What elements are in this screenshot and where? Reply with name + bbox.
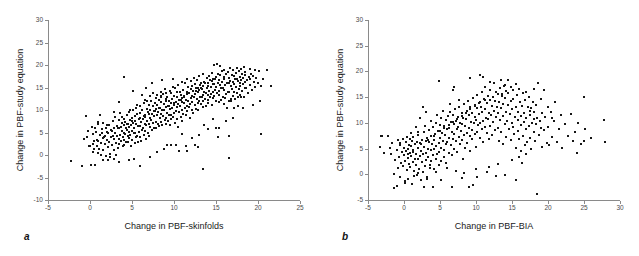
- data-point: [210, 93, 212, 95]
- data-point: [136, 135, 138, 137]
- data-point: [412, 151, 414, 153]
- data-point: [138, 118, 140, 120]
- data-point: [538, 134, 540, 136]
- data-point: [510, 139, 512, 141]
- data-point: [223, 103, 225, 105]
- data-point: [200, 87, 202, 89]
- y-tick-label: 10: [346, 120, 363, 127]
- data-point: [196, 79, 198, 81]
- data-point: [445, 162, 447, 164]
- data-point: [169, 124, 171, 126]
- data-point: [92, 143, 94, 145]
- data-point: [412, 136, 414, 138]
- data-point: [153, 110, 155, 112]
- data-point: [435, 171, 437, 173]
- data-point: [521, 162, 523, 164]
- data-point: [208, 75, 210, 77]
- data-point: [390, 153, 392, 155]
- data-point: [536, 117, 538, 119]
- x-tick-label: 0: [402, 205, 406, 212]
- x-tick-label: 0: [88, 205, 92, 212]
- data-point: [501, 93, 503, 95]
- data-point: [510, 86, 512, 88]
- data-point: [183, 96, 185, 98]
- data-point: [231, 88, 233, 90]
- data-point: [83, 138, 85, 140]
- data-point: [119, 112, 121, 114]
- data-point: [472, 97, 474, 99]
- data-point: [423, 131, 425, 133]
- data-point: [411, 140, 413, 142]
- data-point: [510, 100, 512, 102]
- data-point: [448, 152, 450, 154]
- data-point: [85, 115, 87, 117]
- data-point: [469, 108, 471, 110]
- data-point: [394, 159, 396, 161]
- data-point: [230, 98, 232, 100]
- data-point: [460, 130, 462, 132]
- data-point: [105, 127, 107, 129]
- data-point: [504, 84, 506, 86]
- data-point: [136, 104, 138, 106]
- x-tick-label: 25: [296, 205, 303, 212]
- data-point: [415, 164, 417, 166]
- data-point: [461, 115, 463, 117]
- data-point: [512, 89, 514, 91]
- data-point: [240, 79, 242, 81]
- data-point: [479, 74, 481, 76]
- data-point: [149, 95, 151, 97]
- data-point: [419, 117, 421, 119]
- data-point: [524, 99, 526, 101]
- data-point: [425, 159, 427, 161]
- data-point: [438, 142, 440, 144]
- data-point: [425, 111, 427, 113]
- y-tick: [45, 155, 48, 156]
- data-point: [156, 151, 158, 153]
- data-point: [412, 149, 414, 151]
- data-point: [452, 89, 454, 91]
- data-point: [468, 186, 470, 188]
- data-point: [416, 141, 418, 143]
- data-point: [471, 138, 473, 140]
- data-point: [147, 132, 149, 134]
- data-point: [233, 107, 235, 109]
- data-point: [491, 105, 493, 107]
- data-point: [180, 94, 182, 96]
- data-point: [197, 146, 199, 148]
- data-point: [122, 136, 124, 138]
- data-point: [190, 80, 192, 82]
- data-point: [167, 120, 169, 122]
- data-point: [490, 114, 492, 116]
- data-point: [580, 143, 582, 145]
- data-point: [166, 144, 168, 146]
- data-point: [207, 128, 209, 130]
- data-point: [128, 111, 130, 113]
- data-point: [191, 109, 193, 111]
- data-point: [215, 86, 217, 88]
- data-point: [484, 99, 486, 101]
- data-point: [469, 135, 471, 137]
- data-point: [105, 155, 107, 157]
- data-point: [181, 120, 183, 122]
- y-tick-label: -10: [26, 197, 43, 204]
- data-point: [518, 138, 520, 140]
- x-tick-label: 5: [438, 205, 442, 212]
- data-point: [453, 133, 455, 135]
- data-point: [134, 115, 136, 117]
- data-point: [180, 99, 182, 101]
- data-point: [207, 99, 209, 101]
- x-tick-label: 15: [508, 205, 515, 212]
- data-point: [451, 186, 453, 188]
- data-point: [474, 105, 476, 107]
- data-point: [118, 143, 120, 145]
- data-point: [134, 142, 136, 144]
- data-point: [175, 144, 177, 146]
- data-point: [508, 128, 510, 130]
- data-point: [461, 112, 463, 114]
- data-point: [408, 144, 410, 146]
- data-point: [478, 113, 480, 115]
- y-tick-label: 10: [26, 107, 43, 114]
- data-point: [572, 140, 574, 142]
- data-point: [410, 155, 412, 157]
- data-point: [214, 78, 216, 80]
